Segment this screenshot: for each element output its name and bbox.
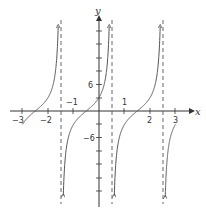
x-axis-label: x [195,106,201,117]
asymptotes [61,20,163,204]
chart-canvas: x y −3 −2 −1 1 2 3 6 −6 [0,0,206,214]
x-tick-label-m1: −1 [66,98,78,107]
x-tick-label-3: 3 [173,116,178,125]
y-axis-label: y [94,5,101,16]
x-tick-label-2: 2 [147,116,152,125]
x-tick-label-m3: −3 [12,116,24,125]
y-tick-label-6: 6 [88,81,93,90]
curve-segment-4 [165,124,175,197]
x-tick-label-1: 1 [122,98,127,107]
tangent-graph: x y −3 −2 −1 1 2 3 6 −6 [0,0,206,214]
y-tick-label-m6: −6 [83,134,95,143]
curve-segment-1 [23,26,59,124]
x-tick-label-m2: −2 [40,116,52,125]
